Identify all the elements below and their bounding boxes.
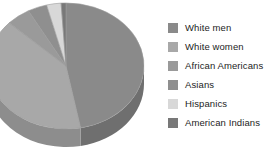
legend-swatch-icon [168,99,178,109]
legend-item-american-indians[interactable]: American Indians [168,113,276,132]
legend-swatch-icon [168,23,178,33]
legend-item-label: White women [185,41,244,52]
legend: White men White women African Americans … [168,18,276,132]
legend-item-label: Hispanics [185,98,227,109]
legend-item-label: Asians [185,79,214,90]
legend-item-label: African Americans [185,60,263,71]
legend-item-white-men[interactable]: White men [168,18,276,37]
legend-item-white-women[interactable]: White women [168,37,276,56]
legend-item-label: American Indians [185,117,260,128]
legend-item-african-americans[interactable]: African Americans [168,56,276,75]
pie-chart-graphic [0,0,160,149]
legend-swatch-icon [168,118,178,128]
pie-chart-screenshot: White men White women African Americans … [0,0,276,149]
legend-swatch-icon [168,61,178,71]
legend-item-asians[interactable]: Asians [168,75,276,94]
legend-item-hispanics[interactable]: Hispanics [168,94,276,113]
legend-swatch-icon [168,42,178,52]
legend-item-label: White men [185,22,231,33]
pie-chart-svg [0,0,160,149]
legend-swatch-icon [168,80,178,90]
